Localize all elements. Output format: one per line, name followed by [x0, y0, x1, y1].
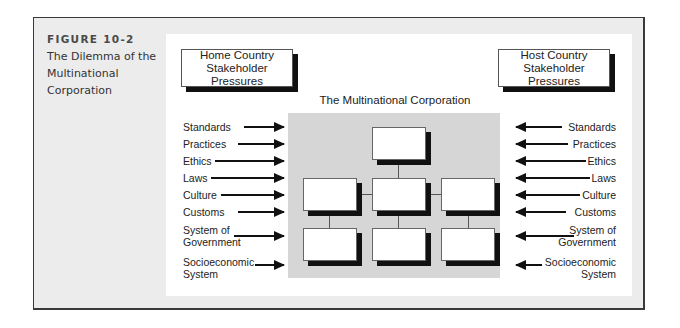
- right-label-socioeconomic: Socioeconomic System: [543, 256, 616, 280]
- arrow-left-icon: [516, 143, 568, 145]
- org-box-mid-center: [372, 178, 426, 211]
- arrow-left-icon: [516, 235, 574, 237]
- left-label-socioeconomic: Socioeconomic System: [183, 256, 255, 280]
- arrow-right-icon: [215, 160, 284, 162]
- home-country-label: Home Country Stakeholder Pressures: [182, 49, 292, 88]
- arrow-right-icon: [238, 143, 284, 145]
- org-box-bottom-center: [372, 228, 426, 261]
- connector-line: [427, 194, 441, 195]
- connector-line: [329, 211, 330, 228]
- connector-line: [398, 160, 399, 178]
- arrow-left-icon: [516, 264, 542, 266]
- org-box-top: [372, 127, 426, 160]
- arrow-right-icon: [238, 211, 284, 213]
- left-label-culture: Culture: [183, 189, 217, 201]
- left-label-customs: Customs: [183, 206, 224, 218]
- home-country-box: Home Country Stakeholder Pressures: [181, 49, 293, 87]
- arrow-right-icon: [211, 177, 284, 179]
- org-box-mid-right: [441, 178, 495, 211]
- left-label-laws: Laws: [183, 172, 208, 184]
- org-box-bottom-right: [441, 228, 495, 261]
- host-country-label: Host Country Stakeholder Pressures: [499, 49, 609, 88]
- arrow-left-icon: [516, 211, 566, 213]
- arrow-left-icon: [516, 160, 586, 162]
- left-label-practices: Practices: [183, 138, 226, 150]
- corporation-title: The Multinational Corporation: [290, 94, 500, 106]
- arrow-right-icon: [234, 235, 284, 237]
- arrow-left-icon: [516, 194, 580, 196]
- org-box-mid-left: [303, 178, 357, 211]
- host-country-box: Host Country Stakeholder Pressures: [498, 49, 610, 87]
- left-label-ethics: Ethics: [183, 155, 212, 167]
- left-label-standards: Standards: [183, 121, 231, 133]
- connector-line: [357, 194, 372, 195]
- arrow-left-icon: [516, 126, 562, 128]
- arrow-right-icon: [221, 194, 284, 196]
- connector-line: [468, 211, 469, 228]
- figure-number: FIGURE 10-2: [47, 33, 135, 45]
- connector-line: [398, 211, 399, 228]
- figure-title: The Dilemma of the Multinational Corpora…: [47, 48, 162, 99]
- arrow-right-icon: [255, 264, 284, 266]
- arrow-right-icon: [244, 126, 284, 128]
- org-box-bottom-left: [303, 228, 357, 261]
- arrow-left-icon: [516, 177, 590, 179]
